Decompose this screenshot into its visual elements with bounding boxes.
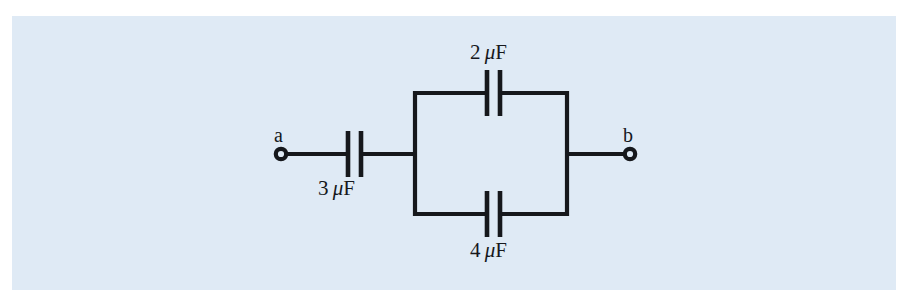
capacitor-2uf-value: 2	[470, 40, 481, 64]
capacitor-3uf-value: 3	[318, 176, 329, 200]
capacitor-4uf-mu: μ	[485, 238, 496, 262]
capacitor-2uf-farad: F	[495, 40, 507, 64]
capacitor-3uf-mu: μ	[333, 176, 344, 200]
terminal-a-node	[276, 149, 286, 159]
terminal-b-node	[625, 149, 635, 159]
circuit-schematic	[0, 0, 909, 304]
terminal-b-label: b	[623, 125, 633, 145]
terminal-a-label: a	[274, 125, 283, 145]
capacitor-4uf-label: 4 μF	[470, 240, 507, 261]
capacitor-3uf-farad: F	[343, 176, 355, 200]
circuit-figure: a b 2 μF 3 μF 4 μF	[0, 0, 909, 304]
capacitor-2uf-mu: μ	[485, 40, 496, 64]
capacitor-3uf-label: 3 μF	[318, 178, 355, 199]
capacitor-4uf-value: 4	[470, 238, 481, 262]
capacitor-4uf-farad: F	[495, 238, 507, 262]
capacitor-2uf-label: 2 μF	[470, 42, 507, 63]
